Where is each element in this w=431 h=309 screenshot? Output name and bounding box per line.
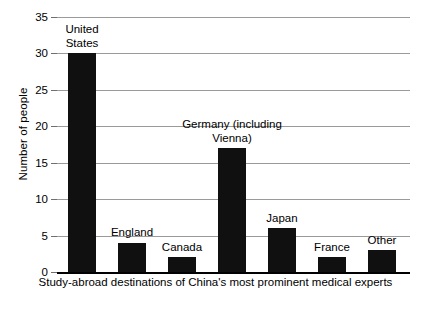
bar (368, 250, 396, 272)
bar (318, 257, 346, 272)
bar (118, 243, 146, 272)
bar (268, 228, 296, 272)
bar-category-label: England (111, 226, 153, 240)
y-axis-tick (51, 53, 57, 54)
bar-chart-figure: Number of people 05101520253035United St… (0, 0, 431, 309)
bar-category-label: Other (368, 234, 397, 248)
y-axis-tick-label: 35 (35, 11, 48, 23)
plot-area: 05101520253035United StatesEnglandCanada… (57, 17, 410, 272)
bar (218, 148, 246, 272)
y-axis-tick-label: 10 (35, 193, 48, 205)
bar-category-label: Japan (266, 212, 297, 226)
y-axis-tick (51, 236, 57, 237)
y-axis-title: Number of people (17, 64, 29, 204)
bar (168, 257, 196, 272)
y-axis-tick-label: 5 (42, 230, 48, 242)
gridline (57, 53, 410, 54)
bar-category-label: United States (65, 23, 98, 50)
x-axis-caption: Study-abroad destinations of China's mos… (0, 276, 431, 288)
bar-category-label: Germany (including Vienna) (182, 118, 282, 145)
x-axis-line (57, 272, 410, 274)
bar-category-label: France (314, 241, 350, 255)
y-axis-tick (51, 17, 57, 18)
bar (68, 53, 96, 272)
y-axis-tick (51, 272, 57, 273)
gridline (57, 17, 410, 18)
gridline (57, 90, 410, 91)
y-axis-tick-label: 30 (35, 47, 48, 59)
y-axis-tick (51, 199, 57, 200)
bar-category-label: Canada (162, 241, 202, 255)
y-axis-tick (51, 126, 57, 127)
y-axis-tick (51, 163, 57, 164)
y-axis-tick-label: 20 (35, 120, 48, 132)
y-axis-tick-label: 15 (35, 157, 48, 169)
y-axis-tick (51, 90, 57, 91)
y-axis-tick-label: 25 (35, 84, 48, 96)
